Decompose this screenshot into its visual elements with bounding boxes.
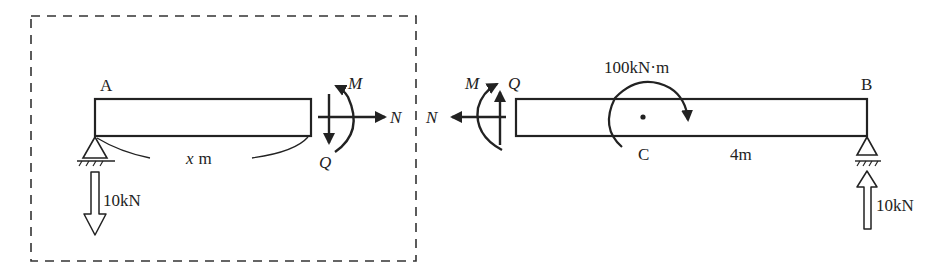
right-N-label: N bbox=[425, 108, 439, 127]
dimension-x-label: xm bbox=[185, 149, 212, 168]
reaction-arrow-b bbox=[857, 171, 877, 229]
label-C: C bbox=[638, 145, 649, 164]
dimension-cb-label: 4m bbox=[730, 145, 752, 164]
right-beam bbox=[516, 99, 867, 136]
reaction-a-label: 10kN bbox=[103, 191, 141, 210]
left-moment-arrow bbox=[335, 86, 354, 152]
point-C-dot bbox=[640, 114, 645, 119]
left-beam bbox=[95, 99, 311, 136]
left-M-label: M bbox=[347, 74, 363, 93]
left-Q-label: Q bbox=[319, 153, 331, 172]
applied-moment-label: 100kN·m bbox=[604, 58, 669, 77]
right-M-label: M bbox=[464, 74, 480, 93]
beam-free-body-diagram: A 10kN xm M Q N B C 100kN·m bbox=[0, 0, 939, 275]
right-beam-segment bbox=[516, 99, 867, 136]
label-A: A bbox=[100, 76, 113, 95]
right-Q-label: Q bbox=[508, 74, 520, 93]
left-N-label: N bbox=[389, 108, 403, 127]
left-internal-forces bbox=[318, 86, 385, 152]
left-beam-segment bbox=[95, 99, 311, 136]
diagram-canvas: A 10kN xm M Q N B C 100kN·m bbox=[0, 0, 939, 275]
label-B: B bbox=[861, 75, 872, 94]
pin-support-a bbox=[77, 137, 115, 166]
pin-support-b bbox=[855, 137, 881, 166]
right-internal-forces bbox=[452, 84, 506, 150]
reaction-b-label: 10kN bbox=[876, 196, 914, 215]
